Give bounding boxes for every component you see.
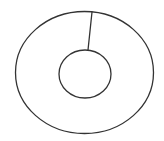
diagram-canvas — [0, 0, 164, 141]
concentric-circles-diagram — [0, 0, 164, 141]
connector-line — [88, 12, 92, 50]
inner-circle — [59, 50, 111, 98]
outer-ellipse — [16, 12, 154, 134]
